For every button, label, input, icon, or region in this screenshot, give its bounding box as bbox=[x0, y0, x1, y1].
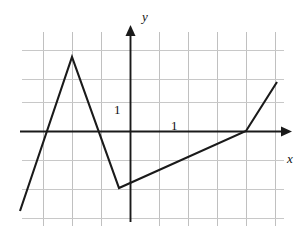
y-axis-label: y bbox=[142, 10, 148, 23]
x-unit-label: 1 bbox=[171, 119, 178, 132]
x-axis-label: x bbox=[287, 152, 293, 165]
figure-background bbox=[0, 0, 306, 236]
graph-figure bbox=[0, 0, 306, 236]
y-unit-label: 1 bbox=[114, 103, 121, 116]
